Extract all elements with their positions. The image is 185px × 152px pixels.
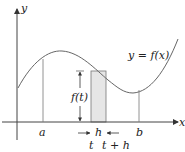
curve-label: y = f(x) bbox=[127, 49, 169, 62]
y-axis-label: y bbox=[20, 2, 28, 15]
tick-a: a bbox=[39, 126, 46, 139]
x-axis-label: x bbox=[179, 116, 185, 129]
area-under-curve-diagram: y x y = f(x) f(t) a b h t t + h bbox=[0, 0, 185, 152]
height-label: f(t) bbox=[70, 91, 88, 104]
width-label: h bbox=[95, 126, 102, 139]
tick-t-plus-h: t + h bbox=[102, 139, 130, 152]
tick-b: b bbox=[136, 126, 143, 139]
approx-rectangle bbox=[91, 71, 106, 122]
diagram-canvas: y x y = f(x) f(t) a b h t t + h bbox=[0, 0, 185, 152]
tick-t: t bbox=[89, 139, 94, 152]
